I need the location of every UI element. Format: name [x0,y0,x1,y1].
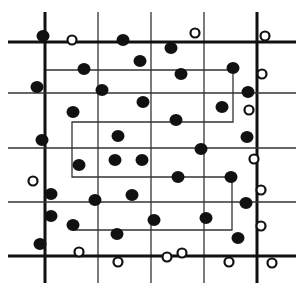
filled-dot [36,134,49,146]
grid-diagram [0,0,304,293]
filled-dot [148,214,161,226]
open-circle [257,186,266,195]
filled-dot [227,62,240,74]
filled-dot [126,189,139,201]
filled-dot [172,171,185,183]
filled-dot [137,96,150,108]
filled-dot [241,131,254,143]
open-circle [268,259,277,268]
filled-dot [89,194,102,206]
open-circle [225,258,234,267]
filled-dots [31,30,255,250]
filled-dot [216,101,229,113]
open-circle [191,29,200,38]
filled-dot [175,68,188,80]
filled-dot [117,34,130,46]
open-circle [258,70,267,79]
filled-dot [73,159,86,171]
open-circle [257,222,266,231]
filled-dot [111,228,124,240]
open-circle [250,155,259,164]
filled-dot [134,55,147,67]
filled-dot [31,81,44,93]
filled-dot [136,154,149,166]
open-circle [29,177,38,186]
filled-dot [240,197,253,209]
grid-lines [8,12,296,283]
filled-dot [45,188,58,200]
filled-dot [67,219,80,231]
filled-dot [96,84,109,96]
filled-dot [225,171,238,183]
filled-dot [45,210,58,222]
open-circle [68,36,77,45]
open-circle [245,106,254,115]
filled-dot [37,30,50,42]
diagram-canvas [0,0,304,293]
open-circle [114,258,123,267]
filled-dot [232,232,245,244]
open-circle [261,32,270,41]
open-circle [75,248,84,257]
filled-dot [170,114,183,126]
filled-dot [78,63,91,75]
filled-dot [109,154,122,166]
filled-dot [34,238,47,250]
filled-dot [200,212,213,224]
filled-dot [165,42,178,54]
open-circle [178,249,187,258]
filled-dot [195,143,208,155]
open-circle [163,253,172,262]
filled-dot [67,106,80,118]
filled-dot [242,86,255,98]
filled-dot [112,130,125,142]
